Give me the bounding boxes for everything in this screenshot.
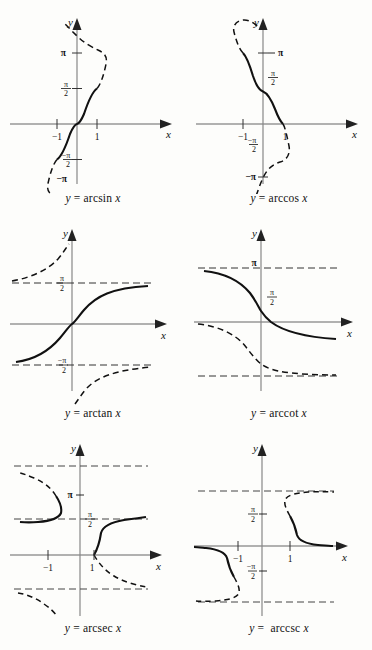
caption-eq: = bbox=[70, 407, 83, 419]
caption-eq: = bbox=[71, 192, 84, 204]
xtick-one: 1 bbox=[95, 132, 100, 142]
ytick-pi: π bbox=[278, 48, 284, 58]
panel-arccot: π π 2 y x y = arccot x bbox=[186, 221, 372, 436]
caption-fn: arctan bbox=[83, 407, 112, 419]
figure-sheet: π π 2 −π 2 −π −1 1 y x y = arcsin x bbox=[0, 0, 372, 650]
x-axis-label: x bbox=[346, 327, 352, 339]
ytick-neg-pi-half-num: −π bbox=[58, 356, 67, 365]
curve-right-upper-dashed bbox=[285, 492, 334, 516]
plot-arcsin: π π 2 −π 2 −π −1 1 y x bbox=[0, 6, 186, 194]
caption-arcsin: y = arcsin x bbox=[0, 192, 186, 204]
caption-x: x bbox=[299, 192, 307, 204]
tick-labels: π π 2 −π 2 −π −1 1 bbox=[52, 48, 100, 184]
ytick-neg-pi-half-den: 2 bbox=[62, 366, 66, 375]
tick-labels: π π 2 −1 1 bbox=[43, 490, 95, 573]
ytick-pi-half-den: 2 bbox=[88, 520, 92, 529]
panel-arctan: π 2 −π 2 y x y = arctan x bbox=[0, 221, 186, 436]
caption-eq: = bbox=[256, 192, 269, 204]
caption-arctan: y = arctan x bbox=[0, 407, 186, 419]
ytick-neg-pi: −π bbox=[245, 172, 256, 182]
xtick-one: 1 bbox=[283, 132, 288, 142]
panel-arcsin: π π 2 −π 2 −π −1 1 y x y = arcsin x bbox=[0, 6, 186, 221]
ytick-neg-pi-half-den: 2 bbox=[66, 160, 70, 169]
ytick-pi-half-num: π bbox=[64, 80, 68, 89]
x-axis-label: x bbox=[351, 128, 357, 140]
ytick-pi-half-num: π bbox=[271, 69, 275, 78]
plot-arctan: π 2 −π 2 y x bbox=[0, 221, 186, 409]
curve-lower-left-dashed bbox=[18, 593, 57, 616]
caption-x: x bbox=[113, 622, 121, 634]
ytick-neg-pi-half-num: −π bbox=[248, 136, 257, 145]
x-axis-label: x bbox=[160, 329, 166, 341]
plot-arccsc: π 2 −π 2 −1 1 y x bbox=[186, 436, 372, 624]
ytick-pi-half-den: 2 bbox=[271, 78, 275, 87]
caption-eq: = bbox=[70, 622, 83, 634]
y-axis-label: y bbox=[253, 16, 259, 28]
ytick-neg-pi-half-den: 2 bbox=[251, 572, 255, 581]
ytick-pi-half-den: 2 bbox=[60, 284, 64, 293]
axes bbox=[10, 18, 172, 184]
ytick-pi-half-num: π bbox=[88, 510, 92, 519]
ytick-neg-pi-half-num: −π bbox=[62, 151, 71, 160]
axes bbox=[194, 229, 353, 391]
xtick-neg-one: −1 bbox=[238, 132, 248, 142]
axes bbox=[10, 229, 167, 391]
caption-x: x bbox=[299, 407, 307, 419]
ytick-pi-half-den: 2 bbox=[64, 89, 68, 98]
panel-arccsc: π 2 −π 2 −1 1 y x y = arccsc x bbox=[186, 436, 372, 650]
caption-arcsec: y = arcsec x bbox=[0, 622, 186, 634]
caption-fn: arcsec bbox=[83, 622, 113, 634]
caption-arccsc: y = arccsc x bbox=[186, 622, 372, 634]
y-axis-label: y bbox=[252, 442, 258, 454]
ytick-neg-pi-half-num: −π bbox=[247, 562, 256, 571]
ytick-pi-half-num: π bbox=[270, 288, 274, 297]
y-axis-label: y bbox=[70, 442, 76, 454]
caption-x: x bbox=[300, 622, 308, 634]
tick-marks bbox=[243, 53, 268, 177]
curve-lower-dashed bbox=[75, 367, 152, 404]
curve-upper-dashed bbox=[65, 24, 106, 89]
plot-arcsec: π π 2 −1 1 y x bbox=[0, 436, 186, 624]
xtick-one: 1 bbox=[288, 554, 293, 564]
caption-x: x bbox=[112, 192, 120, 204]
tick-labels: π 2 −π 2 −1 1 bbox=[233, 505, 293, 581]
ytick-pi-half-den: 2 bbox=[270, 298, 274, 307]
caption-fn: arccot bbox=[269, 407, 298, 419]
curve-left-principal bbox=[194, 547, 234, 577]
ytick-pi: π bbox=[67, 490, 73, 500]
caption-arccos: y = arccos x bbox=[186, 192, 372, 204]
ytick-pi-half-den: 2 bbox=[251, 515, 255, 524]
curve-right-principal bbox=[94, 517, 146, 555]
asymptote-lines bbox=[14, 466, 148, 589]
axes bbox=[194, 444, 348, 616]
ytick-pi: π bbox=[61, 48, 67, 58]
plot-arccot: π π 2 y x bbox=[186, 221, 372, 409]
caption-fn: arcsin bbox=[84, 192, 113, 204]
y-axis-label: y bbox=[251, 227, 257, 239]
caption-eq: = bbox=[255, 622, 271, 634]
caption-eq: = bbox=[256, 407, 269, 419]
axes bbox=[10, 444, 162, 616]
curve-left-upper-dashed bbox=[20, 473, 56, 496]
xtick-one: 1 bbox=[90, 563, 95, 573]
panel-arccos: π π 2 −π 2 −π −1 1 y x y = arccos x bbox=[186, 6, 372, 221]
y-axis-label: y bbox=[67, 16, 73, 28]
caption-fn: arccsc bbox=[270, 622, 300, 634]
ytick-neg-pi: −π bbox=[56, 174, 67, 184]
caption-fn: arccos bbox=[269, 192, 300, 204]
ytick-pi-half-num: π bbox=[60, 274, 64, 283]
curve-right-lower-dashed bbox=[94, 555, 146, 587]
plot-arccos: π π 2 −π 2 −π −1 1 y x bbox=[186, 6, 372, 194]
xtick-neg-one: −1 bbox=[52, 132, 62, 142]
y-axis-label: y bbox=[62, 227, 68, 239]
caption-x: x bbox=[113, 407, 121, 419]
x-axis-label: x bbox=[155, 560, 161, 572]
x-axis-label: x bbox=[165, 128, 171, 140]
caption-arccot: y = arccot x bbox=[186, 407, 372, 419]
panel-arcsec: π π 2 −1 1 y x y = arcsec x bbox=[0, 436, 186, 650]
xtick-neg-one: −1 bbox=[233, 554, 243, 564]
xtick-neg-one: −1 bbox=[43, 563, 53, 573]
ytick-pi-half-num: π bbox=[251, 505, 255, 514]
ytick-pi: π bbox=[251, 258, 257, 268]
curve-left-lower-dashed bbox=[196, 577, 239, 601]
